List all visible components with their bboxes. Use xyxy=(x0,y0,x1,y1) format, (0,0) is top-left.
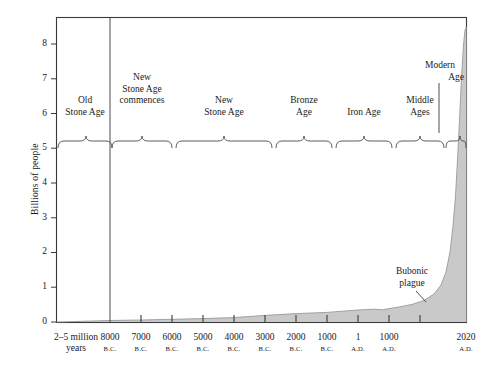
x-tick-era: A.D. xyxy=(443,343,489,354)
y-tick-label-8: 8 xyxy=(31,38,47,48)
era-label-old-stone-age: Old Stone Age xyxy=(62,95,108,118)
y-tick-label-0: 0 xyxy=(31,316,47,326)
era-label-line: Stone Age xyxy=(112,84,172,96)
era-label-line: Middle xyxy=(394,95,446,107)
era-label-line: Age xyxy=(278,107,330,119)
era-label-line: Stone Age xyxy=(192,107,256,119)
x-tick-label-2020ad: 2020 A.D. xyxy=(443,332,489,354)
x-tick-label-1000ad: 1000 A.D. xyxy=(366,332,412,354)
annotation-line: Bubonic xyxy=(384,266,440,278)
x-tick-value: 1000 xyxy=(366,332,412,343)
era-label-line: commences xyxy=(112,95,172,107)
annotation-bubonic-plague: Bubonic plague xyxy=(384,266,440,289)
era-label-iron-age: Iron Age xyxy=(338,107,390,119)
y-tick-label-4: 4 xyxy=(31,177,47,187)
era-label-line: Iron Age xyxy=(338,107,390,119)
era-label-middle-ages: Middle Ages xyxy=(394,95,446,118)
era-label-line: Modern xyxy=(412,60,468,72)
era-label-bronze-age: Bronze Age xyxy=(278,95,330,118)
y-tick-label-2: 2 xyxy=(31,246,47,256)
era-label-line: Bronze xyxy=(278,95,330,107)
population-chart-figure: Billions of people 0 1 2 3 4 5 6 7 8 2–5… xyxy=(0,0,492,371)
era-label-line: Old xyxy=(62,95,108,107)
y-axis-ticks xyxy=(51,44,57,322)
era-label-new-stone-age: New Stone Age xyxy=(192,95,256,118)
era-label-line: Ages xyxy=(394,107,446,119)
era-label-line: Stone Age xyxy=(62,107,108,119)
era-label-line: New xyxy=(112,72,172,84)
x-tick-era: A.D. xyxy=(366,343,412,354)
x-tick-value: 2020 xyxy=(443,332,489,343)
era-label-modern-age: Modern Age xyxy=(412,60,468,83)
era-label-line: Age xyxy=(412,72,468,84)
chart-canvas xyxy=(0,0,492,371)
annotation-line: plague xyxy=(384,278,440,290)
y-tick-label-7: 7 xyxy=(31,73,47,83)
y-tick-label-1: 1 xyxy=(31,281,47,291)
y-tick-label-3: 3 xyxy=(31,212,47,222)
era-label-line: New xyxy=(192,95,256,107)
y-tick-label-6: 6 xyxy=(31,108,47,118)
era-label-new-stone-age-commences: New Stone Age commences xyxy=(112,72,172,107)
y-tick-label-5: 5 xyxy=(31,142,47,152)
